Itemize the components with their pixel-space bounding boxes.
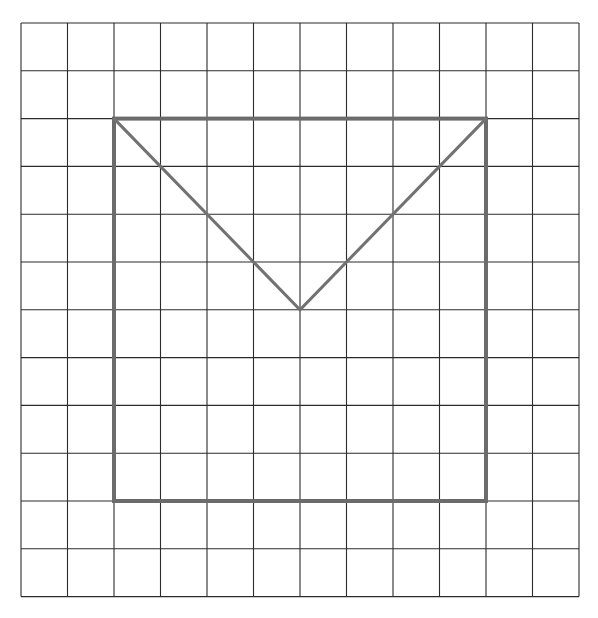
grid-diagram [0, 0, 598, 618]
